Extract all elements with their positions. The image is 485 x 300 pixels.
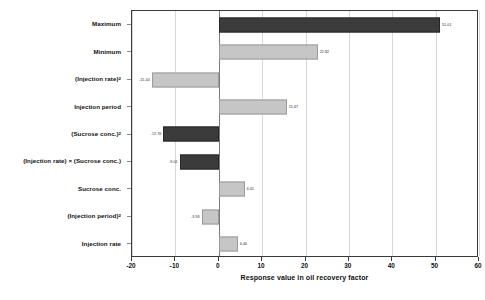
category-label: (Injection rate)2 (75, 65, 121, 92)
bar-value-label: -3.93 (191, 215, 200, 219)
category-label: Injection rate (82, 230, 121, 257)
tornado-chart: MaximumMinimum(Injection rate)2Injection… (0, 0, 485, 300)
bar-row: 4.40 (132, 231, 477, 258)
bar-row: 51.01 (132, 11, 477, 38)
category-label: Minimum (93, 37, 121, 64)
tick-mark (131, 257, 132, 261)
tick-label: 0 (216, 262, 220, 269)
tick-mark (478, 257, 479, 261)
bar-value-label: 6.01 (247, 187, 254, 191)
bar-row: -15.44 (132, 66, 477, 93)
bar-row: 22.82 (132, 38, 477, 65)
category-tick (127, 243, 131, 244)
category-tick (127, 188, 131, 189)
bar-value-label: -12.76 (151, 132, 162, 136)
tick-label: -10 (170, 262, 179, 269)
tick-mark (435, 257, 436, 261)
category-tick (127, 51, 131, 52)
tick-label: 50 (431, 262, 438, 269)
category-tick (127, 79, 131, 80)
tick-mark (174, 257, 175, 261)
plot-area: 51.0122.82-15.4415.67-12.76-9.016.01-3.9… (131, 10, 478, 257)
category-label: Sucrose conc. (78, 175, 121, 202)
tick-label: 20 (301, 262, 308, 269)
tick-mark (218, 257, 219, 261)
tick-mark (348, 257, 349, 261)
bar-value-label: -15.44 (139, 78, 150, 82)
bar-series: 51.0122.82-15.4415.67-12.76-9.016.01-3.9… (132, 11, 477, 256)
tick-label: 60 (474, 262, 481, 269)
bar (219, 182, 245, 197)
tick-mark (305, 257, 306, 261)
category-tick (127, 106, 131, 107)
bar-row: 15.67 (132, 93, 477, 120)
bar-row: -9.01 (132, 148, 477, 175)
tick-mark (261, 257, 262, 261)
bar-value-label: 15.67 (289, 105, 299, 109)
bar (219, 100, 287, 115)
category-label: (Injection rate) × (Sucrose conc.) (23, 147, 121, 174)
bar (219, 17, 440, 32)
bar-value-label: 51.01 (442, 23, 452, 27)
gridline (479, 11, 480, 256)
category-label: Maximum (92, 10, 121, 37)
tick-label: 30 (344, 262, 351, 269)
tick-label: -20 (126, 262, 135, 269)
category-tick (127, 216, 131, 217)
category-tick (127, 134, 131, 135)
category-label: (Injection period)2 (67, 202, 121, 229)
bar-value-label: 22.82 (320, 50, 330, 54)
category-tick (127, 24, 131, 25)
bar (152, 72, 219, 87)
bar (219, 45, 318, 60)
category-label: (Sucrose conc.)2 (71, 120, 121, 147)
bar-row: -12.76 (132, 121, 477, 148)
tick-label: 10 (258, 262, 265, 269)
bar (202, 209, 219, 224)
bar (163, 127, 218, 142)
bar-value-label: -9.01 (169, 160, 178, 164)
category-label: Injection period (74, 92, 121, 119)
x-axis-title: Response value in oil recovery factor (131, 274, 478, 281)
bar-row: 6.01 (132, 176, 477, 203)
bar-row: -3.93 (132, 203, 477, 230)
tick-label: 40 (388, 262, 395, 269)
category-tick (127, 161, 131, 162)
bar (180, 154, 219, 169)
bar-value-label: 4.40 (240, 242, 247, 246)
bar (219, 237, 238, 252)
tick-mark (391, 257, 392, 261)
category-axis-labels: MaximumMinimum(Injection rate)2Injection… (0, 10, 127, 257)
